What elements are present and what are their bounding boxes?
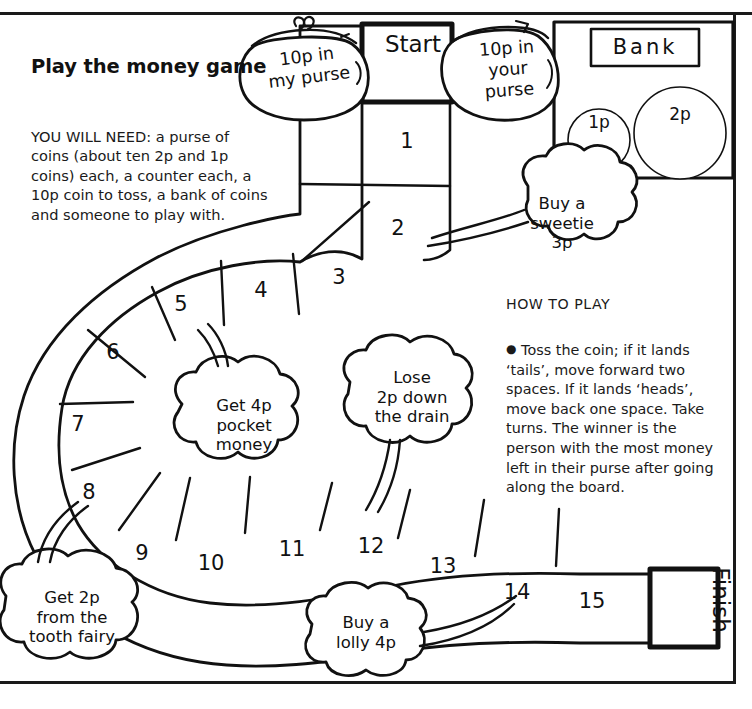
board-cell-4: 4 (244, 279, 278, 301)
board-cell-15: 15 (575, 590, 609, 612)
money-game-worksheet: Play the money game YOU WILL NEED: a pur… (0, 0, 752, 709)
board-cell-6: 6 (96, 341, 130, 363)
cloud-pocket-money-line3: money (192, 435, 296, 455)
board-cell-9: 9 (125, 542, 159, 564)
finish-square-label: Finish (708, 550, 734, 650)
cloud-drain-label: Lose 2p down the drain (357, 368, 467, 427)
board-cell-12: 12 (354, 535, 388, 557)
bank-coin-2p-label: 2p (634, 104, 726, 124)
cloud-lolly-line1: Buy a (316, 613, 416, 633)
board-cell-3: 3 (322, 266, 356, 288)
cloud-tooth-fairy-line2: from the (8, 608, 136, 628)
cloud-drain-line2: 2p down (357, 388, 467, 408)
cloud-drain-line3: the drain (357, 407, 467, 427)
cloud-sweetie-line2: sweetie (513, 214, 611, 234)
you-will-need-text: YOU WILL NEED: a purse of coins (about t… (31, 127, 271, 224)
how-to-play-text: Toss the coin; if it lands ‘tails’, move… (506, 342, 714, 495)
start-square-label: Start (364, 31, 462, 57)
board-cell-2: 2 (381, 217, 415, 239)
cloud-pocket-money-line2: pocket (192, 416, 296, 436)
cloud-tooth-fairy-line3: tooth fairy (8, 627, 136, 647)
board-cell-7: 7 (61, 413, 95, 435)
page-title: Play the money game (31, 55, 266, 78)
cloud-sweetie-line3: 3p (513, 233, 611, 253)
bank-title: Bank (592, 30, 698, 65)
cloud-sweetie-label: Buy a sweetie 3p (513, 194, 611, 253)
cloud-tooth-fairy-label: Get 2p from the tooth fairy (8, 588, 136, 647)
how-to-play-body: ● Toss the coin; if it lands ‘tails’, mo… (506, 340, 730, 498)
board-cell-13: 13 (426, 555, 460, 577)
cloud-tooth-fairy-line1: Get 2p (8, 588, 136, 608)
cloud-lolly-line2: lolly 4p (316, 633, 416, 653)
board-cell-11: 11 (275, 538, 309, 560)
how-to-play-heading: HOW TO PLAY (506, 296, 610, 312)
board-cell-10: 10 (194, 552, 228, 574)
board-cell-14: 14 (500, 581, 534, 603)
cloud-pocket-money-label: Get 4p pocket money (192, 396, 296, 455)
cloud-drain-line1: Lose (357, 368, 467, 388)
bank-coin-1p-label: 1p (568, 112, 630, 132)
cloud-pocket-money-line1: Get 4p (192, 396, 296, 416)
board-cell-5: 5 (164, 293, 198, 315)
board-cell-1: 1 (390, 130, 424, 152)
board-cell-8: 8 (72, 481, 106, 503)
purse-your-purse-label: 10p in your purse (458, 35, 558, 105)
bullet-icon: ● (506, 342, 516, 356)
cloud-lolly-label: Buy a lolly 4p (316, 613, 416, 652)
cloud-sweetie-line1: Buy a (513, 194, 611, 214)
